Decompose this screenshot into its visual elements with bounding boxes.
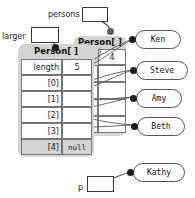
reference-dot-ken <box>129 36 136 43</box>
array-back-cell-2-value <box>98 99 126 116</box>
array-front-cell-2-value <box>62 107 92 123</box>
variable-label-persons: persons <box>48 10 80 19</box>
variable-label-larger: larger <box>2 32 26 41</box>
reference-dot-larger <box>52 44 59 51</box>
array-front-cell-1-label: [1] <box>21 91 62 107</box>
array-front-cell-length-label: length <box>21 59 62 75</box>
variable-box-p[interactable] <box>87 176 114 192</box>
reference-dot-amy <box>130 95 137 102</box>
array-front-cell-3-value <box>62 123 92 139</box>
reference-dot-steve <box>130 67 137 74</box>
array-front-cell-0-value <box>62 75 92 91</box>
object-bubble-kathy[interactable]: Kathy <box>133 163 185 182</box>
diagram-canvas: Person[ ] 4 length Person[ ] length 5 [0… <box>0 0 195 198</box>
array-front-cell-length-value: 5 <box>62 59 92 75</box>
array-back-cell-0-value <box>98 65 126 82</box>
array-front-cell-1-value <box>62 91 92 107</box>
variable-box-persons[interactable] <box>82 7 108 22</box>
object-bubble-amy[interactable]: Amy <box>136 89 182 108</box>
array-front-cell-2-label: [2] <box>21 107 62 123</box>
object-bubble-beth[interactable]: Beth <box>137 117 185 136</box>
array-back-cell-length-value: 4 <box>98 49 126 65</box>
reference-dot-beth <box>131 123 138 130</box>
array-front-cell-0-label: [0] <box>21 75 62 91</box>
array-front-cell-4-value: null <box>62 139 92 155</box>
variable-label-p: p <box>78 183 83 192</box>
array-back-cell-3-value <box>98 116 126 133</box>
reference-dot-kathy <box>127 169 134 176</box>
object-bubble-ken[interactable]: Ken <box>135 30 181 49</box>
reference-dot-persons <box>107 28 114 35</box>
array-front-cell-4-label: [4] <box>21 139 62 155</box>
array-back-cell-1-value <box>98 82 126 99</box>
variable-box-larger[interactable] <box>31 27 59 43</box>
array-object-front: Person[ ] length 5 [0] [1] [2] [3] [4] n… <box>18 44 94 157</box>
array-front-cell-3-label: [3] <box>21 123 62 139</box>
object-bubble-steve[interactable]: Steve <box>136 61 188 80</box>
